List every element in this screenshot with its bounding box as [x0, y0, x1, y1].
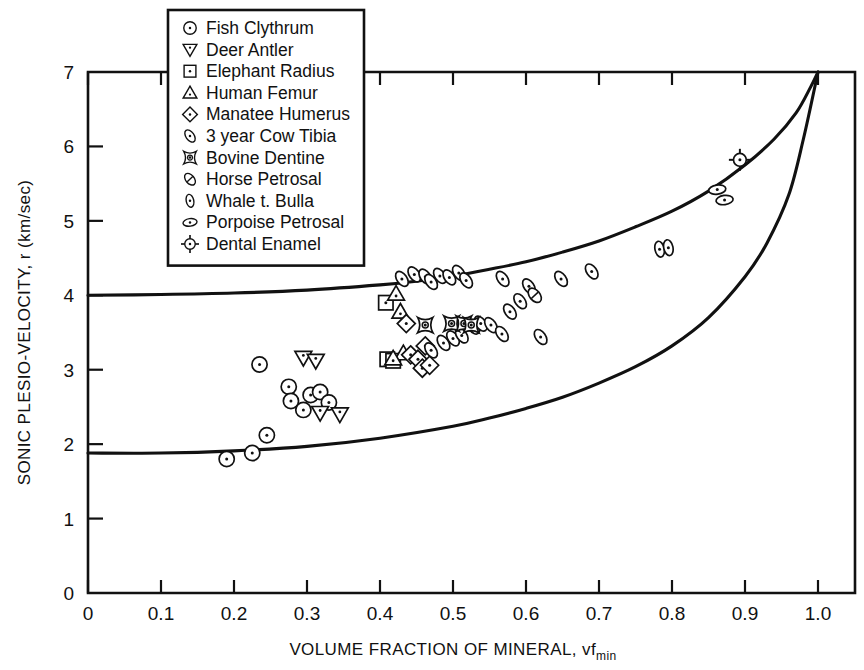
marker-circle-dot: [259, 428, 274, 443]
series-whale-t-bulla: [653, 239, 674, 258]
x-tick-label: 0.2: [221, 603, 247, 624]
x-tick-label: 0: [83, 603, 94, 624]
marker-circle-dot: [296, 402, 311, 417]
legend-label: Horse Petrosal: [206, 169, 322, 189]
legend-item-elephant-radius[interactable]: Elephant Radius: [184, 61, 335, 81]
legend-label: Bovine Dentine: [206, 148, 325, 168]
marker-circle-dot: [252, 357, 267, 372]
legend-label: Elephant Radius: [206, 61, 335, 81]
y-tick-label: 7: [63, 62, 74, 83]
x-tick-label: 0.1: [148, 603, 174, 624]
y-tick-label: 0: [63, 583, 74, 604]
y-tick-label: 5: [63, 211, 74, 232]
x-tick-label: 0.8: [659, 603, 685, 624]
marker-circle-dot: [184, 22, 196, 34]
x-tick-label: 1.0: [805, 603, 831, 624]
legend-label: Manatee Humerus: [206, 104, 350, 124]
marker-spool: [464, 317, 479, 332]
y-tick-label: 3: [63, 360, 74, 381]
legend-label: Whale t. Bulla: [206, 191, 314, 211]
legend-label: Dental Enamel: [206, 234, 321, 254]
marker-circle-dot: [281, 379, 296, 394]
legend-label: Deer Antler: [206, 40, 294, 60]
x-tick-label: 0.4: [367, 603, 394, 624]
chart-figure: 00.10.20.30.40.50.60.70.80.91.001234567 …: [0, 0, 864, 670]
x-tick-label: 0.3: [294, 603, 320, 624]
x-tick-label: 0.5: [440, 603, 466, 624]
legend-label: Human Femur: [206, 83, 318, 103]
marker-circle-dot: [245, 445, 260, 460]
marker-square-dot: [184, 65, 196, 77]
y-tick-label: 6: [63, 136, 74, 157]
legend-item-porpoise-petrosal[interactable]: Porpoise Petrosal: [182, 212, 344, 232]
plot-background: [0, 0, 864, 670]
y-tick-label: 2: [63, 434, 74, 455]
legend-item-3-year-cow-tibia[interactable]: 3 year Cow Tibia: [183, 126, 337, 146]
y-tick-label: 1: [63, 509, 74, 530]
marker-circle-dot: [219, 451, 234, 466]
x-tick-label: 0.9: [732, 603, 758, 624]
legend-label: Porpoise Petrosal: [206, 212, 344, 232]
x-tick-label: 0.6: [513, 603, 539, 624]
scatter-plot-canvas: 00.10.20.30.40.50.60.70.80.91.001234567 …: [0, 0, 864, 670]
legend-item-manatee-humerus[interactable]: Manatee Humerus: [183, 104, 351, 124]
legend-label: Fish Clythrum: [206, 18, 314, 38]
y-tick-label: 4: [63, 285, 74, 306]
x-tick-label: 0.7: [586, 603, 612, 624]
legend-label: 3 year Cow Tibia: [206, 126, 337, 146]
legend-box: Fish ClythrumDeer AntlerElephant RadiusH…: [168, 10, 364, 266]
marker-spool: [184, 151, 196, 163]
marker-spool: [418, 317, 433, 332]
y-axis-title: SONIC PLESIO-VELOCITY, r (km/sec): [15, 180, 34, 486]
